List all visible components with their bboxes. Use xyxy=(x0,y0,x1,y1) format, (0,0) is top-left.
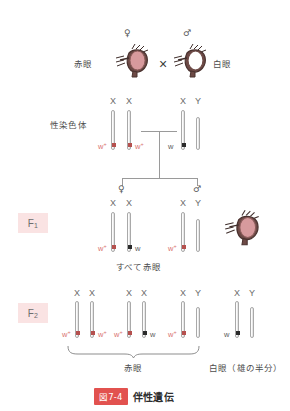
f2-g1-allele-right: w+ xyxy=(98,331,107,339)
parent-male-phenotype-label: 白眼 xyxy=(213,57,231,69)
f1-fly-icon xyxy=(221,207,265,249)
f2-g4-chromosome-x xyxy=(235,301,239,338)
parent-male-sex-symbol: ♂ xyxy=(183,28,191,38)
red-eye-brace xyxy=(66,345,201,359)
f1-male-sex-symbol: ♂ xyxy=(193,184,201,194)
f1-male-chromosome-x xyxy=(181,212,185,252)
parent-female-phenotype-label: 赤眼 xyxy=(74,57,92,69)
f1-male-chrom-label-1: X xyxy=(180,198,186,208)
f1-female-allele-left: w+ xyxy=(98,245,107,253)
f1-female-sex-symbol: ♀ xyxy=(118,184,125,194)
f2-g2-chromosome-2 xyxy=(142,301,146,338)
f2-g1-allele-left: w+ xyxy=(62,331,71,339)
f1-badge: F1 xyxy=(18,213,48,233)
f2-red-eye-label: 赤眼 xyxy=(124,361,142,373)
parent-male-chrom-label-2: Y xyxy=(195,96,201,106)
figure-number-tag: 図7-4 xyxy=(94,388,128,405)
allele-marker-red xyxy=(76,331,80,335)
figure-caption: 図7-4 伴性遺伝 xyxy=(94,388,174,405)
female-fly-icon xyxy=(112,42,154,80)
f1-female-chrom-label-2: X xyxy=(126,198,132,208)
parent-male-chrom-label-1: X xyxy=(180,96,186,106)
allele-text: w+ xyxy=(168,330,177,339)
parent-female-sex-symbol: ♀ xyxy=(124,28,131,38)
allele-marker-red xyxy=(112,245,116,249)
f2-g4-allele-left: w xyxy=(224,331,229,339)
parent-female-chromosome-2 xyxy=(127,110,131,150)
pedigree-split-line xyxy=(122,178,197,179)
parent-male-chromosome-x xyxy=(181,110,185,150)
f2-g4-chrom-label-1: X xyxy=(234,288,240,298)
f2-g2-allele-left: w+ xyxy=(114,331,123,339)
parent-female-chrom-label-2: X xyxy=(126,96,132,106)
cross-symbol: × xyxy=(159,56,167,72)
figure-title: 伴性遺伝 xyxy=(133,389,175,404)
parent-male-allele-left: w xyxy=(168,143,173,151)
allele-text: w+ xyxy=(114,330,123,339)
f1-female-chromosome-1 xyxy=(111,212,115,252)
parent-male-chromosome-y xyxy=(196,117,200,150)
f2-g2-chrom-label-1: X xyxy=(126,288,132,298)
f2-g1-chrom-label-1: X xyxy=(74,288,80,298)
pedigree-drop-line xyxy=(159,131,160,178)
f1-male-allele-left: w+ xyxy=(168,245,177,253)
figure-canvas: ♀ ♂ 赤眼 × xyxy=(0,0,290,411)
f1-male-chromosome-y xyxy=(196,219,200,252)
allele-marker-red xyxy=(128,143,132,147)
allele-text: w+ xyxy=(98,142,107,151)
f2-g1-chromosome-1 xyxy=(75,301,79,338)
f2-g3-chrom-label-1: X xyxy=(180,288,186,298)
allele-marker-black xyxy=(182,143,186,147)
sex-chromosome-label: 性染色体 xyxy=(50,118,87,130)
parent-female-allele-right: w+ xyxy=(135,143,144,151)
f2-g2-chromosome-1 xyxy=(127,301,131,338)
male-fly-icon xyxy=(170,42,212,80)
allele-marker-red xyxy=(128,331,132,335)
allele-text: w xyxy=(150,330,155,339)
allele-text: w+ xyxy=(135,142,144,151)
allele-marker-black xyxy=(143,331,147,335)
f2-g3-allele-left: w+ xyxy=(168,331,177,339)
allele-text: w xyxy=(224,330,229,339)
parent-female-chromosome-1 xyxy=(111,110,115,150)
f2-g1-chromosome-2 xyxy=(90,301,94,338)
allele-marker-red xyxy=(112,143,116,147)
f2-g3-chrom-label-2: Y xyxy=(195,288,201,298)
f2-g3-chromosome-y xyxy=(196,307,200,338)
allele-marker-black xyxy=(128,245,132,249)
f1-female-chrom-label-1: X xyxy=(110,198,116,208)
f2-g2-chrom-label-2: X xyxy=(141,288,147,298)
parent-female-allele-left: w+ xyxy=(98,143,107,151)
f2-g2-allele-right: w xyxy=(150,331,155,339)
allele-text: w xyxy=(135,244,140,253)
allele-marker-red xyxy=(182,245,186,249)
f1-badge-sub: 1 xyxy=(34,222,38,229)
allele-text: w+ xyxy=(168,244,177,253)
f1-male-chrom-label-2: Y xyxy=(195,198,201,208)
f2-white-eye-label: 白眼（雄の半分） xyxy=(209,361,283,373)
f2-g1-chrom-label-2: X xyxy=(89,288,95,298)
allele-text: w+ xyxy=(98,330,107,339)
allele-text: w xyxy=(168,142,173,151)
allele-marker-red xyxy=(182,331,186,335)
parent-female-chrom-label-1: X xyxy=(110,96,116,106)
f1-result-label: すべて赤眼 xyxy=(116,260,161,272)
f2-badge: F2 xyxy=(18,303,48,323)
f2-g3-chromosome-x xyxy=(181,301,185,338)
f1-female-chromosome-2 xyxy=(127,212,131,252)
allele-marker-black xyxy=(236,331,240,335)
allele-text: w+ xyxy=(98,244,107,253)
allele-text: w+ xyxy=(62,330,71,339)
f2-g4-chromosome-y xyxy=(250,307,254,338)
f2-g4-chrom-label-2: Y xyxy=(249,288,255,298)
f1-female-allele-right: w xyxy=(135,245,140,253)
allele-marker-red xyxy=(91,331,95,335)
f2-badge-sub: 2 xyxy=(34,312,38,319)
